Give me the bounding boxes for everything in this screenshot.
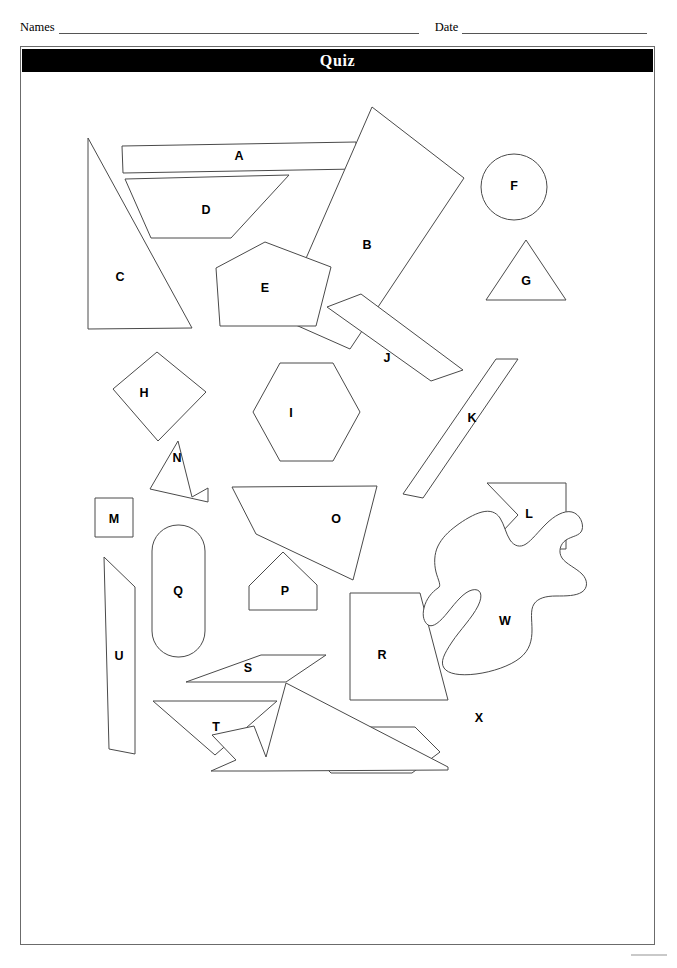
- quiz-title-bar: Quiz: [22, 48, 653, 73]
- shape-f-circle[interactable]: F: [481, 154, 547, 220]
- shape-label-j: J: [384, 351, 391, 365]
- shape-label-l: L: [525, 507, 533, 521]
- names-write-line[interactable]: [59, 22, 419, 34]
- shape-label-o: O: [331, 512, 341, 526]
- shape-label-u: U: [114, 649, 123, 663]
- shape-g-triangle[interactable]: G: [486, 240, 566, 300]
- shape-u-tall-quadrilateral[interactable]: U: [104, 557, 135, 754]
- shape-label-g: G: [521, 274, 531, 288]
- shape-label-n: N: [172, 451, 181, 465]
- date-write-line[interactable]: [462, 22, 647, 34]
- shape-g-triangle-outline: [486, 240, 566, 300]
- shape-n-star-arrow[interactable]: N: [150, 441, 208, 502]
- shape-label-f: F: [510, 179, 518, 193]
- shape-label-c: C: [115, 270, 124, 284]
- shape-label-a: A: [234, 149, 243, 163]
- date-field-group: Date: [435, 21, 648, 34]
- shape-i-hexagon[interactable]: I: [253, 363, 360, 461]
- shape-h-rotated-square[interactable]: H: [113, 352, 206, 441]
- shape-collection: ABCDEFGHIJKLMNOPQRSTUVWX: [20, 74, 655, 945]
- shape-label-w: W: [499, 614, 511, 628]
- shape-o-notched-quadrilateral-outline: [232, 486, 377, 580]
- names-label: Names: [20, 21, 59, 34]
- shape-label-m: M: [109, 512, 119, 526]
- shape-label-d: D: [201, 203, 210, 217]
- shape-p-home-pentagon-outline: [249, 552, 317, 610]
- date-label: Date: [435, 21, 463, 34]
- corner-mark: [631, 954, 667, 956]
- shape-label-h: H: [139, 386, 148, 400]
- shape-q-stadium[interactable]: Q: [152, 525, 205, 657]
- names-field-group: Names: [20, 21, 419, 34]
- shape-s-parallelogram-outline: [186, 655, 326, 682]
- shape-canvas: ABCDEFGHIJKLMNOPQRSTUVWX: [20, 74, 655, 945]
- shape-w-irregular-blob-outline: [423, 511, 586, 675]
- shape-label-x: X: [475, 711, 484, 725]
- shape-p-home-pentagon[interactable]: P: [249, 552, 317, 610]
- shape-k-slanted-quadrilateral-outline: [403, 359, 518, 498]
- shape-m-square[interactable]: M: [95, 498, 133, 537]
- shape-k-slanted-quadrilateral[interactable]: K: [403, 359, 518, 498]
- shape-h-rotated-square-outline: [113, 352, 206, 441]
- shape-i-hexagon-outline: [253, 363, 360, 461]
- shape-label-b: B: [362, 238, 371, 252]
- shape-w-irregular-blob[interactable]: W: [423, 511, 586, 675]
- shape-label-i: I: [289, 406, 292, 420]
- shape-o-notched-quadrilateral[interactable]: O: [232, 486, 377, 580]
- shape-label-p: P: [281, 584, 289, 598]
- shape-label-e: E: [261, 281, 269, 295]
- shape-a-rectangle[interactable]: A: [122, 142, 357, 173]
- header-fields-row: Names Date: [20, 14, 657, 34]
- shape-label-r: R: [377, 648, 386, 662]
- shape-label-q: Q: [173, 584, 183, 598]
- page-title: Quiz: [320, 52, 355, 70]
- shape-s-parallelogram[interactable]: S: [186, 655, 326, 682]
- shape-n-star-arrow-outline: [150, 441, 208, 502]
- shape-d-trapezoid[interactable]: D: [125, 175, 289, 238]
- shape-label-s: S: [244, 661, 252, 675]
- shape-label-t: T: [212, 720, 220, 734]
- shape-label-k: K: [467, 411, 476, 425]
